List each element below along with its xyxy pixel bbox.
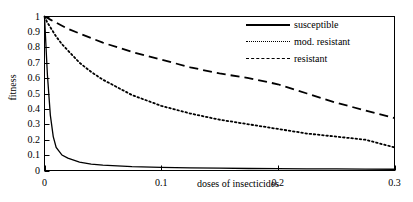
legend-item-label: mod. resistant	[294, 35, 350, 48]
dotted-line-sample	[246, 41, 290, 42]
x-tick-label: 0.3	[375, 178, 413, 188]
solid-line-sample	[246, 24, 290, 26]
legend-item-label: resistant	[294, 52, 327, 65]
legend-item: mod. resistant	[246, 35, 406, 49]
x-tick-label: 0.1	[141, 178, 181, 188]
dashed-line-sample	[246, 58, 290, 59]
chart-legend: susceptiblemod. resistantresistant	[246, 18, 406, 69]
legend-item: resistant	[246, 52, 406, 66]
x-tick-label: 0	[25, 178, 65, 188]
fitness-vs-dose-chart: fitness 00.10.20.30.40.50.60.70.80.91 00…	[0, 0, 413, 202]
legend-item: susceptible	[246, 18, 406, 32]
legend-item-label: susceptible	[294, 18, 338, 31]
x-axis-label: doses of insecticides	[197, 178, 279, 189]
